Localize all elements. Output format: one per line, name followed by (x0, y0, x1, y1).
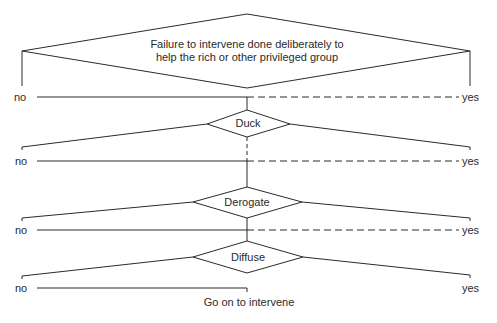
branch-no-label-4: no (15, 282, 27, 295)
branch-no-label-1: no (14, 91, 26, 104)
decision-duck-label: Duck (235, 117, 260, 130)
title-decision-line2: help the rich or other privileged group (156, 51, 338, 64)
branch-no-label-2: no (15, 155, 27, 168)
outcome-label: Go on to intervene (204, 296, 295, 309)
decision-diffuse-label: Diffuse (231, 251, 265, 264)
branch-yes-label-2: yes (462, 155, 479, 168)
decision-derogate-label: Derogate (224, 196, 269, 209)
branch-yes-label-3: yes (462, 224, 479, 237)
branch-no-label-3: no (15, 224, 27, 237)
branch-yes-label-4: yes (462, 282, 479, 295)
branch-yes-label-1: yes (462, 91, 479, 104)
title-decision-line1: Failure to intervene done deliberately t… (150, 38, 343, 51)
